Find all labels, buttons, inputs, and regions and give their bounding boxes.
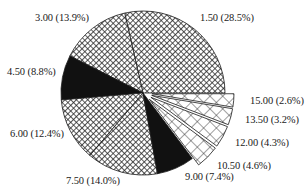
slice-label-15-00: 15.00 (2.6%): [250, 95, 304, 106]
pie-slices: [61, 11, 234, 175]
slice-label-10-50: 10.50 (4.6%): [217, 160, 271, 171]
slice-label-4-50: 4.50 (8.8%): [7, 66, 56, 77]
slice-label-3-00: 3.00 (13.9%): [35, 12, 89, 23]
slice-label-7-50: 7.50 (14.0%): [66, 175, 120, 186]
slice-label-12-00: 12.00 (4.3%): [235, 137, 289, 148]
slice-label-9-00: 9.00 (7.4%): [185, 171, 234, 182]
slice-label-1-50: 1.50 (28.5%): [200, 12, 254, 23]
slice-label-13-50: 13.50 (3.2%): [245, 114, 299, 125]
slice-label-6-00: 6.00 (12.4%): [10, 128, 64, 139]
